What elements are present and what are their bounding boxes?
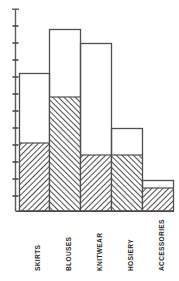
category-label-hosiery: HOSIERY bbox=[127, 239, 134, 271]
bar-hosiery bbox=[112, 129, 143, 212]
category-label-knitwear: KNITWEAR bbox=[96, 233, 103, 271]
bar-skirts bbox=[20, 74, 50, 212]
category-label-blouses: BLOUSES bbox=[65, 237, 72, 271]
bar-chart: SKIRTS BLOUSES KNITWEAR HOSIERY ACCESSOR… bbox=[0, 0, 179, 281]
bar-blouses bbox=[50, 30, 81, 212]
y-axis bbox=[12, 9, 19, 211]
category-label-accessories: ACCESSORIES bbox=[158, 219, 165, 271]
bar-knitwear bbox=[81, 44, 112, 212]
category-label-skirts: SKIRTS bbox=[34, 245, 41, 271]
bar-accessories bbox=[143, 181, 174, 212]
chart-plot-area bbox=[0, 0, 179, 281]
